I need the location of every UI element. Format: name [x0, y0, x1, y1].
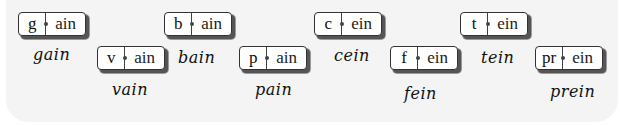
- word-fein: fein: [404, 84, 437, 103]
- domino-tile-cein: cein: [314, 12, 382, 36]
- tile-suffix: ein: [418, 47, 457, 69]
- tile-prefix: v: [98, 47, 125, 69]
- tile-suffix: ain: [125, 47, 164, 69]
- word-gain: gain: [33, 45, 70, 64]
- domino-tile-fein: fein: [390, 46, 458, 70]
- tile-suffix: ain: [267, 47, 306, 69]
- domino-tile-tein: tein: [460, 12, 528, 36]
- domino-tile-vain: vain: [97, 46, 165, 70]
- word-vain: vain: [112, 80, 148, 99]
- tile-prefix: c: [315, 13, 342, 35]
- tile-prefix: b: [165, 13, 192, 35]
- tile-suffix: ain: [46, 13, 85, 35]
- tile-suffix: ein: [563, 47, 602, 69]
- word-bain: bain: [178, 48, 215, 67]
- domino-tile-prein: prein: [535, 46, 603, 70]
- tile-prefix: t: [461, 13, 488, 35]
- tile-prefix: p: [240, 47, 267, 69]
- tile-suffix: ain: [192, 13, 231, 35]
- word-tein: tein: [481, 48, 514, 67]
- domino-tile-gain: gain: [18, 12, 86, 36]
- tile-prefix: f: [391, 47, 418, 69]
- tile-prefix: pr: [536, 47, 563, 69]
- domino-tile-bain: bain: [164, 12, 232, 36]
- tile-suffix: ein: [342, 13, 381, 35]
- tile-prefix: g: [19, 13, 46, 35]
- word-cein: cein: [334, 46, 370, 65]
- word-prein: prein: [550, 82, 595, 101]
- word-pain: pain: [255, 80, 292, 99]
- domino-tile-pain: pain: [239, 46, 307, 70]
- tile-suffix: ein: [488, 13, 527, 35]
